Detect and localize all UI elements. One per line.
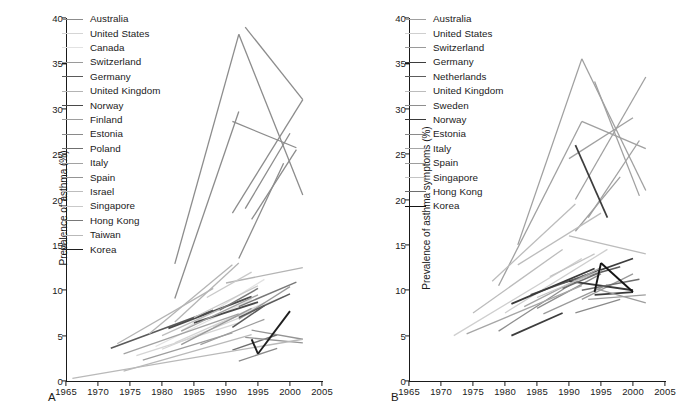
legend-item[interactable]: Italy	[62, 156, 160, 170]
series-line	[505, 249, 607, 313]
asthma-prevalence-figure: Prevalence of asthma (%) 051015202530354…	[0, 0, 687, 415]
x-tick-label: 1995	[247, 386, 269, 397]
panel-b-letter: B	[391, 391, 399, 403]
panel-b-legend: AustraliaUnited StatesSwitzerlandGermany…	[405, 12, 503, 213]
x-tick-label: 1990	[558, 386, 580, 397]
x-tick-mark	[321, 381, 322, 386]
legend-item[interactable]: Spain	[405, 156, 503, 170]
x-tick-mark	[600, 381, 601, 386]
legend-line-swatch-icon	[62, 76, 83, 77]
legend-item-label: Canada	[90, 43, 125, 53]
legend-item[interactable]: Australia	[62, 12, 160, 26]
x-tick-label: 1965	[398, 386, 420, 397]
legend-item[interactable]: Singapore	[405, 170, 503, 184]
x-tick-mark	[97, 381, 98, 386]
legend-item[interactable]: United States	[405, 26, 503, 40]
legend-item-label: United Kingdom	[433, 86, 503, 96]
legend-line-swatch-icon	[62, 249, 83, 250]
legend-line-swatch-icon	[62, 19, 83, 20]
legend-item-label: Spain	[90, 173, 115, 183]
legend-item[interactable]: Norway	[62, 98, 160, 112]
legend-item[interactable]: Hong Kong	[405, 185, 503, 199]
x-tick-mark	[225, 381, 226, 386]
legend-item[interactable]: Estonia	[62, 127, 160, 141]
legend-line-swatch-icon	[405, 76, 426, 77]
x-tick-mark	[440, 381, 441, 386]
y-tick-label: 5	[58, 330, 63, 341]
legend-item[interactable]: Netherlands	[405, 70, 503, 84]
legend-item-label: Estonia	[433, 129, 466, 139]
x-tick-label: 2005	[311, 386, 333, 397]
legend-item[interactable]: Switzerland	[405, 41, 503, 55]
legend-item-label: Israel	[90, 187, 114, 197]
legend-item[interactable]: Switzerland	[62, 55, 160, 69]
panel-a: Prevalence of asthma (%) 051015202530354…	[0, 0, 344, 415]
series-line	[575, 177, 620, 231]
series-line	[245, 27, 303, 100]
y-tick-label: 0	[58, 376, 63, 387]
legend-item[interactable]: Canada	[62, 41, 160, 55]
legend-line-swatch-icon	[62, 105, 83, 106]
legend-item[interactable]: Spain	[62, 170, 160, 184]
legend-line-swatch-icon	[405, 191, 426, 192]
legend-line-swatch-icon	[62, 235, 83, 236]
legend-item[interactable]: Finland	[62, 113, 160, 127]
legend-item-label: Korea	[433, 201, 459, 211]
series-line	[175, 111, 239, 298]
legend-item-label: Italy	[433, 144, 451, 154]
legend-item-label: Finland	[90, 115, 122, 125]
legend-item-label: United States	[433, 29, 492, 39]
series-line	[511, 313, 562, 336]
legend-item-label: Singapore	[433, 173, 478, 183]
x-tick-label: 1970	[430, 386, 452, 397]
legend-item[interactable]: Germany	[405, 55, 503, 69]
legend-item-label: United Kingdom	[90, 86, 160, 96]
series-line	[569, 236, 646, 254]
legend-item[interactable]: Hong Kong	[62, 213, 160, 227]
legend-item[interactable]: Korea	[405, 199, 503, 213]
legend-item[interactable]: Germany	[62, 70, 160, 84]
legend-line-swatch-icon	[62, 119, 83, 120]
legend-item[interactable]: Korea	[62, 242, 160, 256]
legend-item[interactable]: Sweden	[405, 98, 503, 112]
legend-line-swatch-icon	[62, 62, 83, 63]
series-line	[239, 163, 284, 258]
legend-item[interactable]: Taiwan	[62, 228, 160, 242]
legend-item-label: Estonia	[90, 129, 123, 139]
legend-item-label: Spain	[433, 158, 458, 168]
legend-line-swatch-icon	[62, 191, 83, 192]
x-tick-mark	[504, 381, 505, 386]
legend-item[interactable]: Singapore	[62, 199, 160, 213]
legend-item[interactable]: United States	[62, 26, 160, 40]
x-tick-mark	[472, 381, 473, 386]
legend-item-label: Sweden	[433, 101, 469, 111]
y-tick-label: 5	[401, 330, 406, 341]
legend-item[interactable]: United Kingdom	[405, 84, 503, 98]
legend-item-label: Hong Kong	[433, 187, 482, 197]
y-tick-label: 0	[401, 376, 406, 387]
legend-line-swatch-icon	[62, 220, 83, 221]
legend-item[interactable]: Israel	[62, 185, 160, 199]
legend-item[interactable]: Norway	[405, 113, 503, 127]
x-tick-mark	[408, 381, 409, 386]
legend-line-swatch-icon	[62, 177, 83, 178]
x-tick-label: 1980	[151, 386, 173, 397]
legend-item[interactable]: Poland	[62, 142, 160, 156]
x-tick-label: 1985	[183, 386, 205, 397]
legend-line-swatch-icon	[405, 177, 426, 178]
x-tick-label: 1965	[55, 386, 77, 397]
y-tick-label: 10	[52, 285, 63, 296]
legend-item-label: Australia	[433, 14, 472, 24]
legend-item[interactable]: United Kingdom	[62, 84, 160, 98]
legend-item-label: Korea	[90, 245, 116, 255]
legend-line-swatch-icon	[405, 62, 426, 63]
legend-item-label: Switzerland	[433, 43, 484, 53]
x-tick-label: 2000	[622, 386, 644, 397]
legend-item[interactable]: Estonia	[405, 127, 503, 141]
legend-line-swatch-icon	[62, 33, 83, 34]
x-tick-mark	[193, 381, 194, 386]
legend-item[interactable]: Italy	[405, 142, 503, 156]
x-tick-mark	[161, 381, 162, 386]
legend-item[interactable]: Australia	[405, 12, 503, 26]
legend-line-swatch-icon	[405, 19, 426, 20]
